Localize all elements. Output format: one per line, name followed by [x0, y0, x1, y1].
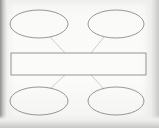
connector-center-to-bottom-left: [50, 75, 65, 89]
concept-map-diagram: [0, 0, 159, 128]
connector-top-right-to-center: [91, 37, 104, 53]
center-node: [11, 53, 146, 75]
ellipse-node-top-left: [10, 10, 68, 38]
connector-center-to-bottom-right: [91, 75, 104, 89]
connector-top-left-to-center: [50, 37, 65, 53]
ellipse-shape-top-left[interactable]: [10, 10, 68, 38]
connector-group: [50, 37, 104, 89]
ellipse-node-bottom-left: [10, 87, 68, 115]
center-rectangle-shape[interactable]: [11, 53, 146, 75]
ellipse-shape-top-right[interactable]: [88, 10, 144, 38]
ellipse-shape-bottom-right[interactable]: [88, 87, 144, 115]
ellipse-node-bottom-right: [88, 87, 144, 115]
scanned-worksheet-page: [0, 0, 159, 128]
ellipse-shape-bottom-left[interactable]: [10, 87, 68, 115]
ellipse-node-top-right: [88, 10, 144, 38]
